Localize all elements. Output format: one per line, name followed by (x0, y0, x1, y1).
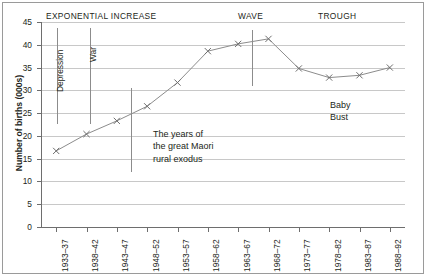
x-axis-tick-label: 1958–62 (211, 239, 221, 272)
exodus-note-line-1: The years of (153, 128, 214, 140)
y-axis-tick-label: 45 (10, 18, 32, 26)
y-axis-tick-label: 15 (10, 155, 32, 163)
y-axis-tick-label: 10 (10, 177, 32, 185)
annotation-baby-bust-note: Baby Bust (330, 99, 351, 124)
data-point-marker (387, 64, 393, 70)
period-header-exponential-increase: EXPONENTIAL INCREASE (46, 11, 156, 21)
y-axis-tick-label: 35 (10, 64, 32, 72)
x-axis-tick-label: 1938–42 (90, 239, 100, 272)
x-axis-tick-label: 1933–37 (60, 239, 70, 272)
period-header-wave: WAVE (238, 11, 263, 21)
y-axis-tick-label: 25 (10, 109, 32, 117)
data-point-marker (53, 148, 59, 154)
exodus-note-line-2: the great Maori (153, 140, 214, 152)
data-point-marker (296, 65, 302, 71)
x-axis-tick-label: 1988–92 (393, 239, 403, 272)
x-axis-tick-label: 1973–77 (302, 239, 312, 272)
x-axis-tick-label: 1983–87 (363, 239, 373, 272)
annotation-rule-wave (252, 30, 253, 86)
y-axis-tick-label: 20 (10, 132, 32, 140)
y-axis-tick-label: 5 (10, 200, 32, 208)
annotation-rule-exodus (131, 88, 132, 172)
annotation-rule-war (90, 28, 91, 124)
annotation-depression-label: Depression (55, 50, 65, 92)
data-point-marker (174, 79, 180, 85)
exodus-note-line-3: rural exodus (153, 153, 214, 165)
baby-bust-line-1: Baby (330, 99, 351, 111)
x-axis-tick-label: 1963–67 (242, 239, 252, 272)
y-axis-tick-label: 30 (10, 86, 32, 94)
annotation-war-label: War (88, 47, 98, 62)
x-axis-tick-label: 1968–72 (272, 239, 282, 272)
data-point-marker (205, 48, 211, 54)
x-axis-line (41, 227, 405, 228)
x-axis-tick-label: 1948–52 (151, 239, 161, 272)
x-axis-tick-label: 1978–82 (333, 239, 343, 272)
y-axis-tick-label: 40 (10, 41, 32, 49)
data-point-marker (114, 118, 120, 124)
period-header-trough: TROUGH (318, 11, 356, 21)
x-axis-tick-label: 1953–57 (181, 239, 191, 272)
data-point-marker (83, 131, 89, 137)
x-axis-tick-label: 1943–47 (120, 239, 130, 272)
data-point-marker (144, 103, 150, 109)
y-axis-tick-label: 0 (10, 223, 32, 231)
birth-rate-line-chart: EXPONENTIAL INCREASE WAVE TROUGH Number … (0, 0, 428, 278)
annotation-maori-exodus-note: The years of the great Maori rural exodu… (153, 128, 214, 165)
baby-bust-line-2: Bust (330, 111, 351, 123)
series-line (56, 39, 390, 151)
